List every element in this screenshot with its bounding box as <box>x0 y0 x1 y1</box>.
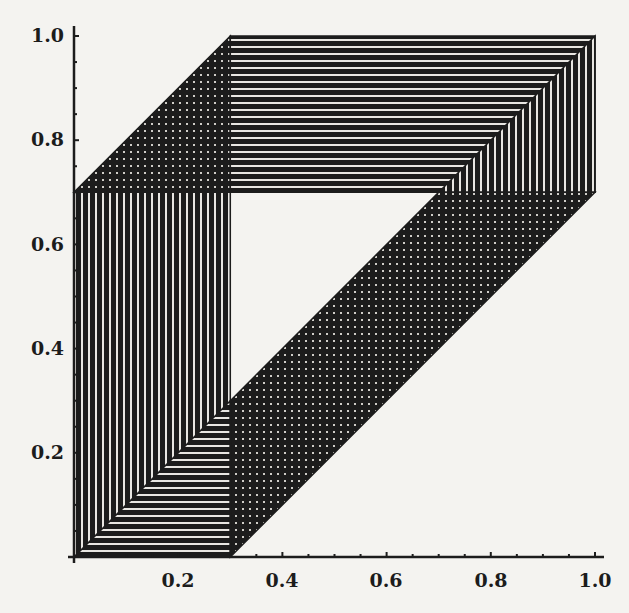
x-tick-label: 0.2 <box>161 569 194 591</box>
y-tick-label: 0.6 <box>31 233 64 255</box>
y-tick-label: 1.0 <box>31 24 64 46</box>
chart-regions <box>74 36 595 557</box>
x-tick-label: 1.0 <box>578 569 611 591</box>
x-tick-label: 0.6 <box>369 569 402 591</box>
diagonal-crosshatch-band <box>230 192 595 557</box>
x-tick-label: 0.4 <box>265 569 298 591</box>
y-tick-label: 0.8 <box>31 128 64 150</box>
y-tick-label: 0.2 <box>31 441 64 463</box>
chart-plot: 0.2 0.4 0.6 0.8 1.0 0.2 0.4 0.6 0.8 1.0 <box>0 0 629 613</box>
top-left-crosshatch-wedge <box>74 36 230 192</box>
y-tick-label: 0.4 <box>31 337 64 359</box>
x-tick-label: 0.8 <box>474 569 507 591</box>
